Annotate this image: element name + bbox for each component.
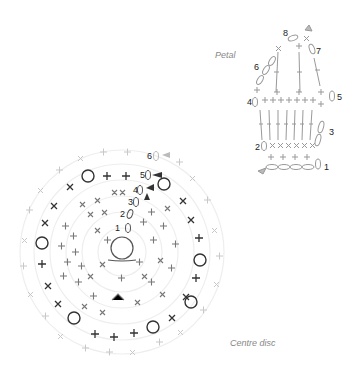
- disc-row-4-label: 4: [133, 185, 138, 195]
- petal-row-1-label: 1: [324, 162, 329, 172]
- disc-row-1-label: 1: [115, 223, 120, 233]
- inner-round-stitches: [58, 190, 179, 315]
- centre-disc-guide-rings: [20, 150, 224, 354]
- petal-row-3-label: 3: [329, 127, 334, 137]
- crochet-chart: 1 2 3 4 5 6: [0, 0, 356, 366]
- disc-row-markers: [126, 152, 159, 233]
- disc-row-2-label: 2: [120, 209, 125, 219]
- disc-row-3-label: 3: [128, 197, 133, 207]
- petal-row-7-label: 7: [316, 46, 321, 56]
- disc-row-5-label: 5: [140, 170, 145, 180]
- petal-row-8-label: 8: [283, 28, 288, 38]
- petal-caption: Petal: [215, 50, 237, 60]
- petal-row-6-label: 6: [254, 62, 259, 72]
- petal-row-2-label: 2: [255, 142, 260, 152]
- petal-row-4-label: 4: [247, 97, 252, 107]
- magic-ring-icon: [108, 237, 136, 261]
- disc-row-6-label: 6: [147, 151, 152, 161]
- petal-row-5-label: 5: [337, 92, 342, 102]
- petal-chart: [253, 25, 335, 174]
- centre-disc-caption: Centre disc: [230, 338, 276, 348]
